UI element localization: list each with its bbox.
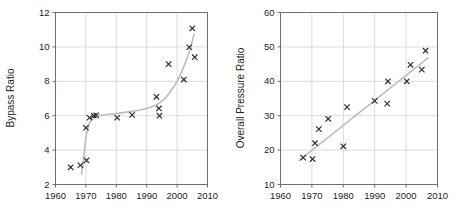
data-point-marker	[129, 112, 134, 117]
data-point-marker	[419, 67, 424, 72]
x-tick-label: 1980	[106, 190, 127, 201]
ticklabels-group-right: 102030405060196019701980199020002010	[264, 7, 448, 201]
data-point-marker	[166, 61, 171, 66]
y-tick-label: 30	[264, 110, 275, 121]
x-tick-label: 1960	[45, 190, 66, 201]
ticklabels-group-left: 24681012196019701980199020002010	[39, 7, 218, 201]
grid-group-left	[56, 13, 208, 185]
y-tick-label: 10	[264, 179, 275, 190]
y-tick-label: 10	[39, 41, 50, 52]
chart-panel-overall-pressure-ratio: 102030405060196019701980199020002010 Ove…	[234, 0, 469, 220]
x-tick-label: 2000	[396, 190, 417, 201]
y-tick-label: 50	[264, 41, 275, 52]
y-tick-label: 2	[44, 179, 49, 190]
trend-group-right	[299, 58, 428, 161]
x-tick-label: 1980	[333, 190, 354, 201]
y-tick-label: 20	[264, 144, 275, 155]
data-point-marker	[312, 141, 317, 146]
data-point-marker	[326, 116, 331, 121]
x-tick-label: 1960	[270, 190, 291, 201]
bypass-ratio-chart: 24681012196019701980199020002010 Bypass …	[0, 0, 234, 220]
data-point-marker	[300, 155, 305, 160]
y-tick-label: 4	[44, 144, 49, 155]
data-point-marker	[423, 48, 428, 53]
data-point-marker	[154, 94, 159, 99]
y-tick-label: 12	[39, 7, 50, 18]
x-tick-label: 1990	[364, 190, 385, 201]
overall-pressure-ratio-chart: 102030405060196019701980199020002010 Ove…	[234, 0, 469, 220]
data-point-marker	[344, 104, 349, 109]
data-point-marker	[310, 156, 315, 161]
data-point-marker	[156, 106, 161, 111]
y-tick-label: 8	[44, 75, 49, 86]
x-tick-label: 1970	[301, 190, 322, 201]
data-point-marker	[192, 55, 197, 60]
y-axis-title-left: Bypass Ratio	[5, 68, 16, 127]
plot-frame-left	[56, 13, 208, 185]
y-tick-label: 6	[44, 110, 49, 121]
y-axis-title-right: Overall Pressure Ratio	[235, 47, 246, 148]
x-tick-label: 1970	[75, 190, 96, 201]
trend-right	[299, 58, 428, 161]
x-tick-label: 2010	[427, 190, 448, 201]
data-point-marker	[316, 126, 321, 131]
x-tick-label: 2010	[197, 190, 218, 201]
data-point-marker	[68, 165, 73, 170]
y-tick-label: 60	[264, 7, 275, 18]
x-tick-label: 2000	[167, 190, 188, 201]
x-tick-label: 1990	[136, 190, 157, 201]
data-point-marker	[385, 101, 390, 106]
figure-container: 24681012196019701980199020002010 Bypass …	[0, 0, 469, 220]
chart-panel-bypass-ratio: 24681012196019701980199020002010 Bypass …	[0, 0, 234, 220]
y-tick-label: 40	[264, 75, 275, 86]
data-point-marker	[84, 158, 89, 163]
data-point-marker	[408, 62, 413, 67]
data-point-marker	[190, 26, 195, 31]
